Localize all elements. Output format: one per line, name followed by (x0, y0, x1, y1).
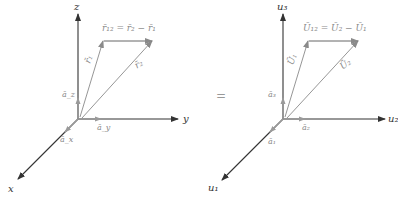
coordinate-systems-diagram: z y x ā_z ā_y ā_x r̄₁ r̄₂ r̄₁₂ = r̄₂ − r… (0, 0, 398, 199)
right-generalized-system (222, 14, 385, 180)
unit-vector-a3-label: ā₃ (268, 91, 276, 99)
r12-equation-label: r̄₁₂ = r̄₂ − r̄₁ (102, 24, 156, 33)
unit-vector-a2-label: ā₂ (302, 124, 310, 132)
unit-vector-ax (65, 119, 78, 132)
left-cartesian-system (18, 14, 178, 179)
y-axis-label: y (183, 114, 189, 124)
equals-sign: = (216, 89, 226, 103)
u3-axis-label: u₃ (277, 2, 287, 12)
vector-r1 (80, 41, 103, 117)
unit-vector-az-label: ā_z (62, 91, 75, 99)
vector-U2 (287, 41, 358, 118)
unit-vector-ax-label: ā_x (60, 136, 73, 144)
z-axis-label: z (74, 2, 79, 12)
U12-equation-label: Ū₁₂ = Ū₂ − Ū₁ (303, 24, 367, 33)
x-axis-label: x (8, 184, 14, 194)
u2-axis-label: u₂ (388, 114, 398, 124)
unit-vector-a1 (270, 119, 283, 132)
vector-r2 (82, 41, 152, 118)
unit-vector-ay-label: ā_y (97, 124, 110, 132)
unit-vector-a1-label: ā₁ (268, 138, 276, 146)
u1-axis-label: u₁ (208, 183, 218, 193)
